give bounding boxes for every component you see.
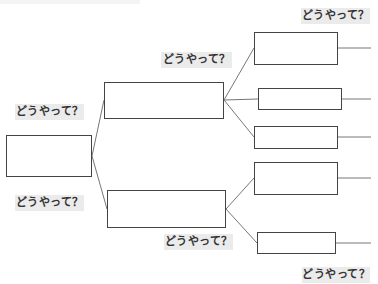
label-left-lower: どうやって？ xyxy=(15,195,84,211)
tree-box-leaf-5 xyxy=(257,232,336,254)
connector-mid-bottom-leaf-4 xyxy=(226,178,254,209)
label-top-right: どうやって？ xyxy=(301,8,370,24)
tree-box-mid-bottom xyxy=(107,190,226,228)
tree-box-leaf-1 xyxy=(254,32,338,65)
tree-box-mid-top xyxy=(104,82,224,119)
label-bottom-right: どうやって？ xyxy=(302,267,370,283)
connector-root-mid-bottom xyxy=(92,156,107,209)
tree-box-leaf-4 xyxy=(254,162,338,195)
tree-box-root xyxy=(6,135,92,177)
label-mid-top: どうやって？ xyxy=(161,52,232,68)
connector-mid-top-leaf-2 xyxy=(224,99,258,100)
connector-mid-top-leaf-3 xyxy=(224,100,254,137)
label-mid-bottom: どうやって？ xyxy=(164,234,233,250)
tree-box-leaf-3 xyxy=(254,126,338,149)
label-left-upper: どうやって？ xyxy=(15,104,84,120)
tree-box-leaf-2 xyxy=(258,88,342,110)
logic-tree-diagram: どうやって？どうやって？どうやって？どうやって？どうやって？どうやって？ xyxy=(0,0,378,284)
connector-root-mid-top xyxy=(92,100,104,156)
